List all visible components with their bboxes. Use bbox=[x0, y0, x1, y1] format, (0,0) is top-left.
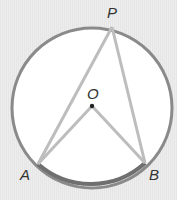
label-a: A bbox=[19, 166, 30, 183]
label-b: B bbox=[149, 166, 159, 183]
label-o: O bbox=[87, 85, 99, 102]
center-point bbox=[90, 104, 94, 108]
diagram-canvas: P O A B bbox=[0, 0, 177, 200]
label-p: P bbox=[107, 4, 117, 21]
circle-diagram: P O A B bbox=[0, 0, 177, 200]
